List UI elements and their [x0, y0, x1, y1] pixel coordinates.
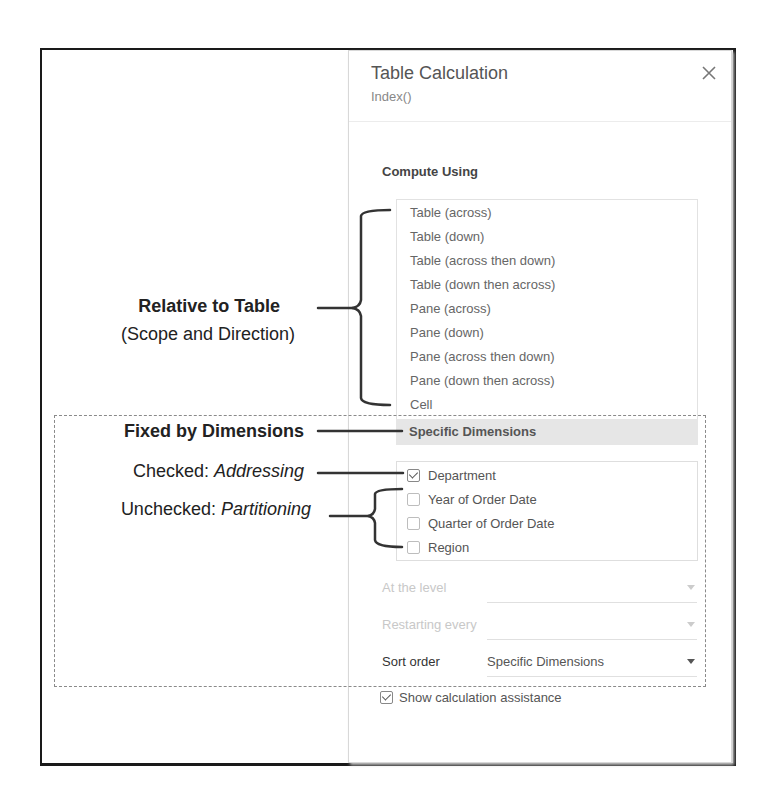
chevron-down-icon: [687, 622, 695, 627]
restarting-every-row: Restarting every: [382, 611, 698, 639]
dimension-label: Region: [428, 540, 469, 555]
compute-option-table-down[interactable]: Table (down): [410, 229, 484, 244]
compute-option-pane-across-then-down[interactable]: Pane (across then down): [410, 349, 555, 364]
compute-option-pane-down[interactable]: Pane (down): [410, 325, 484, 340]
dimension-year-of-order-date[interactable]: Year of Order Date: [407, 490, 537, 508]
compute-option-pane-down-then-across[interactable]: Pane (down then across): [410, 373, 555, 388]
at-the-level-row: At the level: [382, 574, 698, 602]
dialog-subtitle: Index(): [371, 89, 411, 104]
sort-order-value: Specific Dimensions: [487, 654, 604, 669]
annotation-relative-title: Relative to Table: [138, 296, 280, 316]
dimension-region[interactable]: Region: [407, 538, 469, 556]
dimension-label: Year of Order Date: [428, 492, 537, 507]
dimension-label: Quarter of Order Date: [428, 516, 554, 531]
sort-order-label: Sort order: [382, 654, 440, 669]
compute-option-cell[interactable]: Cell: [410, 397, 432, 412]
checkbox-checked[interactable]: [380, 691, 393, 704]
checkbox-unchecked[interactable]: [407, 517, 420, 530]
dialog-title: Table Calculation: [371, 63, 508, 84]
dimensions-list: Department Year of Order Date Quarter of…: [396, 461, 698, 561]
annotation-unchecked-prefix: Unchecked:: [121, 499, 221, 519]
specific-dimensions-label: Specific Dimensions: [409, 424, 536, 439]
table-calculation-dialog: Table Calculation Index() Compute Using …: [348, 50, 732, 763]
restarting-every-label: Restarting every: [382, 617, 477, 632]
close-icon: [699, 63, 719, 83]
compute-option-specific-dimensions[interactable]: Specific Dimensions: [396, 419, 698, 445]
checkbox-checked[interactable]: [407, 469, 420, 482]
at-the-level-dropdown[interactable]: [487, 574, 697, 603]
restarting-every-dropdown[interactable]: [487, 611, 697, 640]
dimension-department[interactable]: Department: [407, 466, 496, 484]
show-assistance-label: Show calculation assistance: [399, 690, 562, 705]
annotation-relative-to-table: Relative to Table: [138, 296, 280, 317]
compute-option-table-down-then-across[interactable]: Table (down then across): [410, 277, 555, 292]
annotation-unchecked-partitioning: Unchecked: Partitioning: [121, 499, 311, 520]
show-calculation-assistance[interactable]: Show calculation assistance: [380, 690, 562, 705]
chevron-down-icon: [687, 659, 695, 664]
annotation-unchecked-term: Partitioning: [221, 499, 311, 519]
at-the-level-label: At the level: [382, 580, 446, 595]
annotation-checked-prefix: Checked:: [133, 461, 214, 481]
annotation-scope-direction: (Scope and Direction): [121, 324, 295, 345]
annotation-checked-term: Addressing: [214, 461, 304, 481]
compute-using-label: Compute Using: [382, 164, 478, 179]
checkbox-unchecked[interactable]: [407, 493, 420, 506]
close-button[interactable]: [699, 63, 719, 83]
sort-order-row: Sort order Specific Dimensions: [382, 648, 698, 676]
header-divider: [349, 121, 731, 122]
annotation-fixed-by-dimensions: Fixed by Dimensions: [124, 421, 304, 442]
sort-order-dropdown[interactable]: Specific Dimensions: [487, 648, 697, 677]
chevron-down-icon: [687, 585, 695, 590]
annotation-fixed-title: Fixed by Dimensions: [124, 421, 304, 441]
annotation-checked-addressing: Checked: Addressing: [133, 461, 304, 482]
dimension-quarter-of-order-date[interactable]: Quarter of Order Date: [407, 514, 554, 532]
compute-option-table-across[interactable]: Table (across): [410, 205, 492, 220]
compute-option-pane-across[interactable]: Pane (across): [410, 301, 491, 316]
dimension-label: Department: [428, 468, 496, 483]
compute-option-table-across-then-down[interactable]: Table (across then down): [410, 253, 555, 268]
compute-using-list[interactable]: Table (across) Table (down) Table (acros…: [396, 199, 698, 443]
checkbox-unchecked[interactable]: [407, 541, 420, 554]
